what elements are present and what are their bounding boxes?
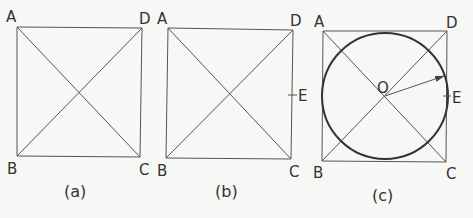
vertex-label-d: D (139, 10, 151, 28)
diagonal-bd (166, 30, 293, 158)
vertex-label-d: D (446, 14, 458, 32)
point-label-e: E (452, 89, 461, 107)
vertex-label-c: C (139, 161, 149, 179)
vertex-label-a: A (6, 8, 17, 26)
panel-c: A D O E B C (c) (313, 13, 461, 205)
panel-b: A D E B C (b) (157, 10, 307, 201)
vertex-label-b: B (157, 162, 167, 180)
panel-a: A D B C (a) (6, 8, 151, 201)
vertex-label-a: A (157, 10, 168, 28)
vertex-label-c: C (289, 163, 299, 181)
caption-c: (c) (372, 186, 393, 205)
vertex-label-d: D (290, 12, 302, 30)
vertex-label-b: B (7, 160, 17, 178)
point-label-e: E (298, 87, 307, 105)
vertex-label-a: A (314, 13, 325, 31)
center-label-o: O (377, 79, 389, 97)
square-construction-diagram: A D B C (a) A D E B C (b) A D O E B C (c… (0, 0, 473, 218)
vertex-label-c: C (446, 165, 456, 183)
caption-b: (b) (215, 182, 238, 201)
caption-a: (a) (64, 182, 86, 201)
vertex-label-b: B (313, 164, 323, 182)
